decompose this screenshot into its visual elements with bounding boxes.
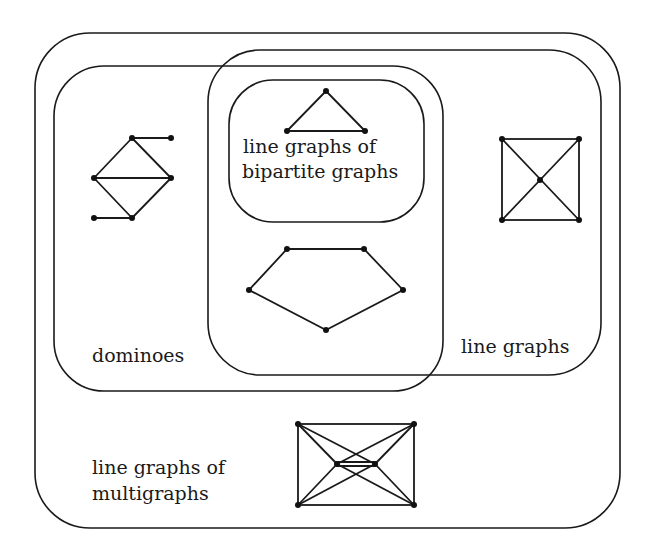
label-multigraphs-line2: multigraphs	[92, 480, 209, 506]
label-line-graphs: line graphs	[461, 333, 569, 359]
region-line-graphs	[208, 50, 601, 375]
label-multigraphs-line1: line graphs of	[92, 454, 225, 480]
wheel-graph	[499, 136, 582, 223]
multigraph-line-graph	[295, 421, 417, 508]
pentagon-graph	[246, 246, 406, 333]
label-dominoes: dominoes	[92, 342, 184, 368]
domino-graph	[91, 135, 174, 221]
label-bipartite-line1: line graphs of	[243, 133, 376, 159]
label-bipartite-line2: bipartite graphs	[242, 158, 398, 184]
triangle-graph	[284, 88, 368, 134]
